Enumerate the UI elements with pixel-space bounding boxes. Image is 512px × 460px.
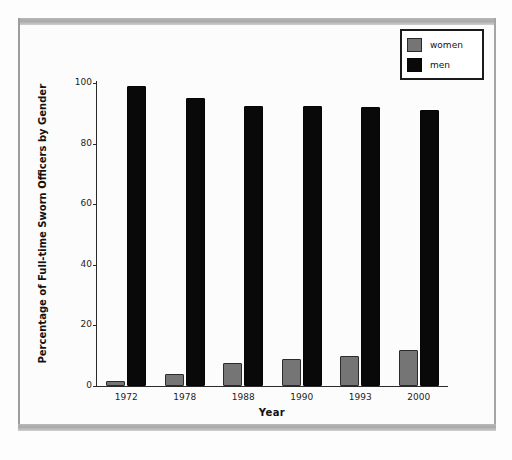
x-axis-line [96,386,448,387]
x-tick-label-1972: 1972 [103,392,149,402]
bar-women-2000 [399,350,418,386]
legend-label-women: women [430,40,463,50]
bar-women-1972 [106,381,125,386]
chart-legend: women men [400,29,484,80]
scanned-figure-page: 020406080100 197219781988199019932000 Ye… [0,0,512,460]
legend-swatch-men-icon [407,58,422,72]
legend-item-men: men [407,56,476,73]
legend-item-women: women [407,36,476,53]
x-tick-label-1988: 1988 [220,392,266,402]
x-tick-label-1993: 1993 [337,392,383,402]
x-tick-label-2000: 2000 [396,392,442,402]
bar-men-1990 [303,106,322,386]
bar-women-1993 [340,356,359,386]
x-tick-label-1978: 1978 [162,392,208,402]
bar-women-1988 [223,363,242,386]
bar-men-2000 [420,110,439,386]
bar-men-1993 [361,107,380,386]
bar-men-1978 [186,98,205,386]
bar-women-1990 [282,359,301,386]
y-tick-mark [93,386,96,387]
x-axis-title: Year [96,407,448,418]
y-axis-title: Percentage of Full-time Sworn Officers b… [37,104,48,364]
bar-women-1978 [165,374,184,386]
legend-label-men: men [430,60,450,70]
bar-men-1972 [127,86,146,386]
bar-men-1988 [244,106,263,386]
legend-swatch-women-icon [407,38,422,52]
x-tick-label-1990: 1990 [279,392,325,402]
bar-chart: 020406080100 197219781988199019932000 Ye… [0,0,512,460]
